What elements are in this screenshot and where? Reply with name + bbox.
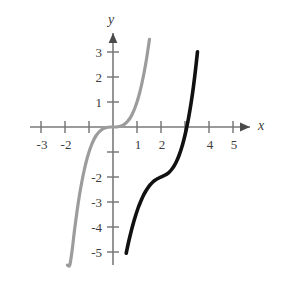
y-tick-label--3: -3 <box>82 196 102 209</box>
x-axis-arrowhead <box>240 123 250 132</box>
y-tick-label--4: -4 <box>82 221 102 234</box>
x-tick-label-5: 5 <box>227 138 241 151</box>
y-tick-label--5: -5 <box>82 246 102 259</box>
y-axis-label: y <box>108 13 114 27</box>
y-axis-arrowhead <box>109 33 118 43</box>
y-tick-label--2: -2 <box>82 171 102 184</box>
x-tick-label-2: 2 <box>155 138 169 151</box>
x-tick-label--3: -3 <box>33 138 51 151</box>
x-axis-label: x <box>258 119 264 133</box>
x-tick-label--2: -2 <box>57 138 75 151</box>
x-tick-label-1: 1 <box>131 138 145 151</box>
graph-figure: -3 -2 1 2 4 5 3 2 1 -2 -3 -4 -5 y x <box>0 0 287 283</box>
y-tick-label-3: 3 <box>88 46 102 59</box>
y-tick-label-1: 1 <box>88 96 102 109</box>
x-tick-label-4: 4 <box>203 138 217 151</box>
curve-black-cubic-translated <box>126 52 197 254</box>
y-tick-label-2: 2 <box>88 71 102 84</box>
